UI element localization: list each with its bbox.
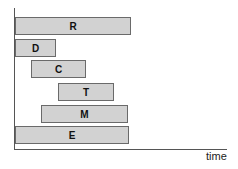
bar-r: R bbox=[15, 17, 131, 35]
bar-label: R bbox=[69, 21, 76, 32]
bar-e: E bbox=[15, 126, 129, 144]
bar-label: C bbox=[55, 64, 62, 75]
bar-label: E bbox=[69, 130, 76, 141]
bar-t: T bbox=[58, 83, 114, 101]
bar-label: M bbox=[80, 109, 88, 120]
bar-label: D bbox=[32, 43, 39, 54]
x-axis-label: time bbox=[206, 150, 227, 162]
bar-label: T bbox=[83, 87, 89, 98]
bar-c: C bbox=[31, 60, 86, 78]
x-axis bbox=[14, 149, 227, 150]
bar-d: D bbox=[15, 39, 56, 57]
bar-m: M bbox=[41, 105, 128, 123]
